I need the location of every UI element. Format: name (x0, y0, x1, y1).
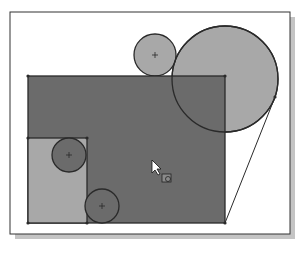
cad-sketch-viewport[interactable] (0, 0, 299, 253)
